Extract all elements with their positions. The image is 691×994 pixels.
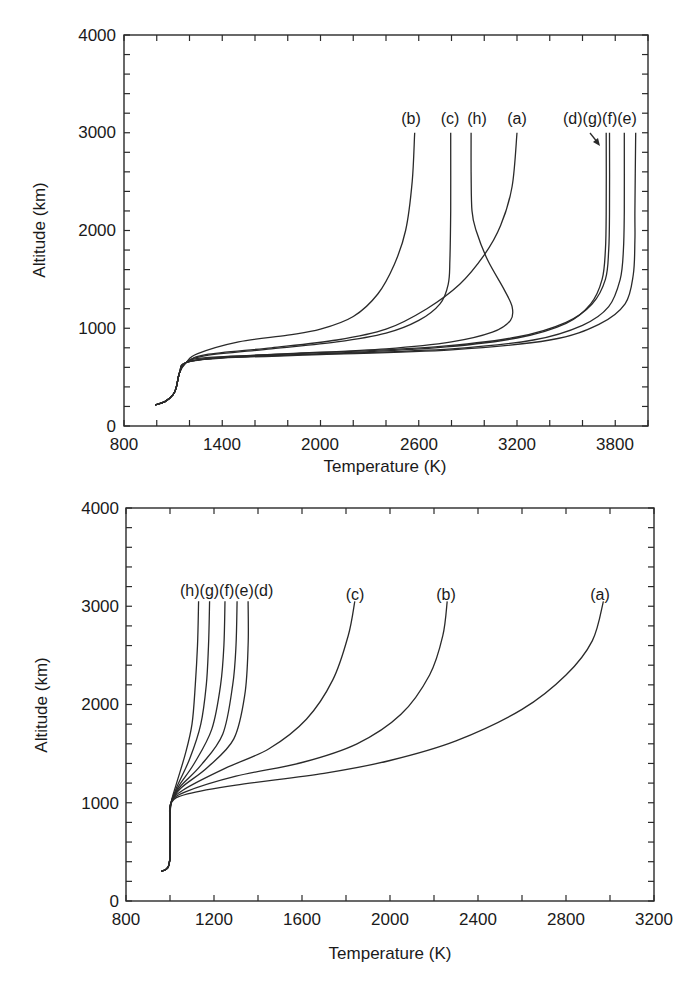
x-tick-label: 800 <box>110 435 138 454</box>
curve-label-a: (a) <box>507 110 527 127</box>
bottom-chart-frame <box>126 508 654 901</box>
y-tick-label: 0 <box>110 892 119 911</box>
y-tick-label: 1000 <box>81 794 119 813</box>
x-tick-label: 2800 <box>547 910 585 929</box>
x-tick-label: 1600 <box>283 910 321 929</box>
y-tick-label: 4000 <box>78 26 116 45</box>
curve-c <box>155 133 451 405</box>
curve-f <box>155 133 624 405</box>
x-tick-label: 2400 <box>459 910 497 929</box>
y-tick-label: 3000 <box>78 123 116 142</box>
top-chart: 0 1000 2000 3000 4000 800 1400 2000 2600… <box>0 0 691 497</box>
curve-label-b: (b) <box>401 110 421 127</box>
curve-d <box>155 133 606 405</box>
curve-label-hgfed: (h)(g)(f)(e)(d) <box>180 582 273 599</box>
top-chart-y-axis-title: Altitude (km) <box>30 182 49 277</box>
curve-a <box>155 133 517 405</box>
curve-g <box>155 133 609 405</box>
top-chart-frame <box>124 35 648 426</box>
curve-label-b: (b) <box>436 586 456 603</box>
curve-g <box>161 601 209 871</box>
bottom-chart-ticks <box>126 508 654 901</box>
top-chart-y-tick-labels: 0 1000 2000 3000 4000 <box>78 26 116 436</box>
y-tick-label: 2000 <box>81 695 119 714</box>
x-tick-label: 3200 <box>635 910 673 929</box>
curve-b <box>155 133 415 405</box>
curve-label-c: (c) <box>441 110 460 127</box>
y-tick-label: 1000 <box>78 319 116 338</box>
top-chart-curves <box>155 133 636 405</box>
curve-d <box>161 601 248 871</box>
x-tick-label: 1400 <box>203 435 241 454</box>
y-tick-label: 2000 <box>78 221 116 240</box>
curve-e <box>155 133 636 405</box>
bottom-chart-y-axis-title: Altitude (km) <box>32 657 51 752</box>
curve-label-a: (a) <box>590 586 610 603</box>
bottom-chart-curves <box>161 601 603 871</box>
curve-h <box>161 601 198 871</box>
bottom-chart-x-tick-labels: 800 1200 1600 2000 2400 2800 3200 <box>112 910 673 929</box>
bottom-chart-curve-labels: (h)(g)(f)(e)(d) (c) (b) (a) <box>180 582 610 603</box>
top-chart-x-axis-title: Temperature (K) <box>324 457 447 476</box>
x-tick-label: 2600 <box>400 435 438 454</box>
top-chart-ticks <box>124 35 648 426</box>
x-tick-label: 3800 <box>596 435 634 454</box>
curve-e <box>161 601 237 871</box>
curve-h <box>155 133 513 405</box>
x-tick-label: 2000 <box>301 435 339 454</box>
y-tick-label: 0 <box>107 417 116 436</box>
bottom-chart-y-tick-labels: 0 1000 2000 3000 4000 <box>81 499 119 911</box>
top-chart-curve-labels: (b) (c) (h) (a) (d)(g)(f)(e) <box>401 110 637 127</box>
curve-label-c: (c) <box>346 586 365 603</box>
y-tick-label: 3000 <box>81 597 119 616</box>
x-tick-label: 1200 <box>195 910 233 929</box>
bottom-chart: 0 1000 2000 3000 4000 800 1200 1600 2000… <box>0 497 691 994</box>
curve-f <box>161 601 225 871</box>
arrow-icon <box>590 133 600 146</box>
top-chart-x-tick-labels: 800 1400 2000 2600 3200 3800 <box>110 435 634 454</box>
y-tick-label: 4000 <box>81 499 119 518</box>
curve-label-dgfe: (d)(g)(f)(e) <box>563 110 637 127</box>
curve-b <box>161 601 447 871</box>
x-tick-label: 800 <box>112 910 140 929</box>
curve-a <box>161 601 603 871</box>
x-tick-label: 2000 <box>371 910 409 929</box>
x-tick-label: 3200 <box>498 435 536 454</box>
bottom-chart-x-axis-title: Temperature (K) <box>329 944 452 963</box>
curve-label-h: (h) <box>467 110 487 127</box>
